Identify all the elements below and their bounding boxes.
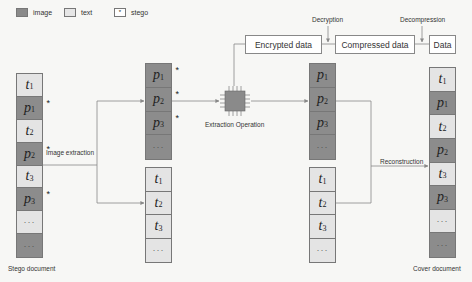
image-block: ··· <box>17 234 42 257</box>
text-block: t3 <box>310 215 335 239</box>
legend-text-swatch <box>64 8 76 17</box>
block-symbol: p <box>317 91 324 107</box>
extracted-images-column: p1*p2*p3*··· <box>145 63 172 160</box>
stego-document-label: Stego document <box>8 265 55 272</box>
block-symbol: p <box>24 191 31 207</box>
legend-text-label: text <box>81 9 92 16</box>
legend-text: text <box>64 8 92 17</box>
legend-stego: * stego <box>114 8 148 17</box>
ellipsis: ··· <box>317 142 329 152</box>
block-symbol: p <box>24 100 31 116</box>
image-block: p1 <box>310 64 335 88</box>
cover-document-column: t1p1t2p2t3p3······ <box>429 67 456 258</box>
text-block: t3 <box>17 166 42 189</box>
ellipsis: ··· <box>24 217 36 227</box>
block-index: 2 <box>160 97 164 106</box>
text-block: t1 <box>146 168 171 192</box>
cover-document-label: Cover document <box>413 265 461 272</box>
restored-images-column: p1p2p3··· <box>309 63 336 160</box>
block-index: 1 <box>158 177 162 186</box>
block-index: 3 <box>158 224 162 233</box>
stego-document-column: t1p1*t2p2*t3p3*······ <box>16 73 43 258</box>
block-symbol: p <box>153 91 160 107</box>
block-index: 1 <box>29 82 33 91</box>
block-index: 3 <box>160 120 164 129</box>
image-block: p1* <box>17 97 42 120</box>
restored-texts-column: t1t2t3··· <box>309 167 336 263</box>
block-symbol: p <box>317 67 324 83</box>
text-block: t3 <box>146 215 171 239</box>
decompression-label: Decompression <box>400 16 445 23</box>
text-block: t2 <box>146 192 171 216</box>
compressed-data-box: Compressed data <box>335 35 415 54</box>
ellipsis: ··· <box>153 142 165 152</box>
stego-marker: * <box>46 98 50 108</box>
block-symbol: p <box>437 142 444 158</box>
block-index: 2 <box>442 124 446 133</box>
block-index: 1 <box>160 73 164 82</box>
block-index: 1 <box>442 77 446 86</box>
image-block: p2 <box>430 139 455 163</box>
image-extraction-label: Image extraction <box>46 149 94 156</box>
block-index: 2 <box>31 151 35 160</box>
text-block: t2 <box>310 192 335 216</box>
block-index: 1 <box>31 105 35 114</box>
block-index: 3 <box>322 224 326 233</box>
legend-image: image <box>16 8 52 17</box>
image-block: p2* <box>17 143 42 166</box>
block-symbol: p <box>153 67 160 83</box>
text-block: t3 <box>430 163 455 187</box>
legend-stego-swatch: * <box>114 8 126 17</box>
text-block: t1 <box>310 168 335 192</box>
legend-image-label: image <box>33 9 52 16</box>
ellipsis: ··· <box>153 245 165 255</box>
extracted-texts-column: t1t2t3··· <box>145 167 172 263</box>
block-index: 3 <box>442 171 446 180</box>
reconstruction-label: Reconstruction <box>380 158 423 165</box>
text-block: t1 <box>430 68 455 92</box>
image-block: p3* <box>146 112 171 136</box>
block-index: 1 <box>444 100 448 109</box>
block-index: 2 <box>324 97 328 106</box>
extraction-operation-label: Extraction Operation <box>205 121 264 128</box>
legend-stego-label: stego <box>131 9 148 16</box>
block-index: 3 <box>31 197 35 206</box>
image-block: p3 <box>310 112 335 136</box>
image-block: ··· <box>430 233 455 257</box>
decryption-label: Decryption <box>312 16 343 23</box>
text-block: t2 <box>430 115 455 139</box>
block-index: 1 <box>322 177 326 186</box>
block-symbol: p <box>153 115 160 131</box>
text-block: ··· <box>430 210 455 234</box>
block-index: 2 <box>322 200 326 209</box>
block-index: 2 <box>29 128 33 137</box>
text-block: t2 <box>17 120 42 143</box>
text-block: ··· <box>146 239 171 262</box>
block-index: 3 <box>444 195 448 204</box>
ellipsis: ··· <box>437 216 449 226</box>
stego-marker: * <box>46 189 50 199</box>
image-block: p2 <box>310 88 335 112</box>
stego-marker: * <box>46 144 50 154</box>
block-index: 2 <box>444 148 448 157</box>
stego-marker: * <box>175 113 179 123</box>
image-block: p3 <box>430 186 455 210</box>
data-box: Data <box>429 35 456 54</box>
text-block: ··· <box>310 239 335 262</box>
chip-icon <box>220 86 250 116</box>
image-block: p1 <box>430 92 455 116</box>
stego-marker: * <box>175 65 179 75</box>
block-index: 3 <box>29 174 33 183</box>
block-index: 3 <box>324 120 328 129</box>
block-index: 2 <box>158 200 162 209</box>
image-block: ··· <box>310 135 335 159</box>
legend-image-swatch <box>16 8 28 17</box>
block-index: 1 <box>324 73 328 82</box>
image-block: p3* <box>17 188 42 211</box>
text-block: ··· <box>17 211 42 234</box>
image-block: p2* <box>146 88 171 112</box>
ellipsis: ··· <box>437 240 449 250</box>
block-symbol: p <box>437 95 444 111</box>
stego-marker: * <box>175 89 179 99</box>
encrypted-data-box: Encrypted data <box>245 35 322 54</box>
